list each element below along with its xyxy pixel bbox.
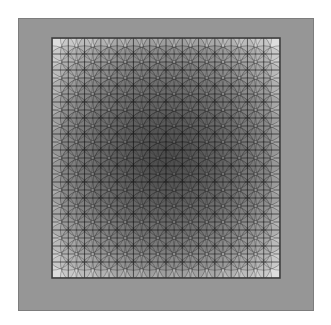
geometric-pattern-svg [0,0,331,325]
artwork-canvas [0,0,331,325]
center-vignette [52,38,280,278]
pattern-group [28,14,304,302]
